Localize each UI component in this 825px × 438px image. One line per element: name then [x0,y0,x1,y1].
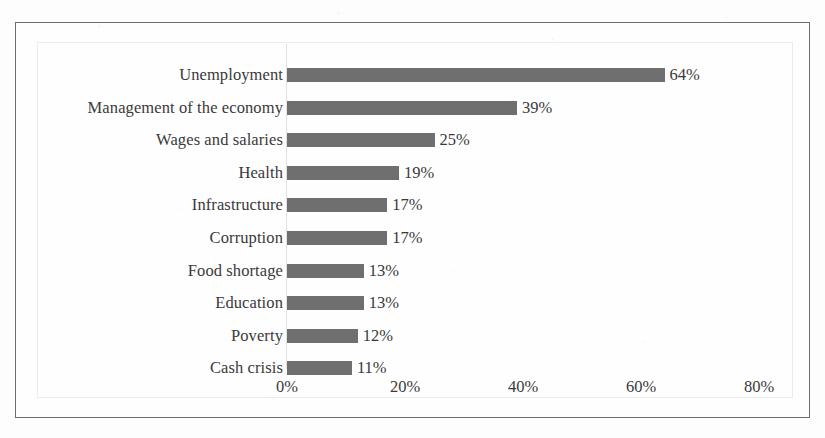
bar-row: Education13% [0,288,825,318]
bar-value-label: 25% [440,125,470,155]
bar-row: Wages and salaries25% [0,125,825,155]
bar-value-label: 12% [363,321,393,351]
bar[interactable] [287,231,387,245]
bar-row: Management of the economy39% [0,93,825,123]
bar-value-label: 13% [369,256,399,286]
category-label: Management of the economy [88,93,283,123]
category-label: Food shortage [188,256,283,286]
bar[interactable] [287,329,358,343]
bar-value-label: 39% [522,93,552,123]
category-label: Education [215,288,283,318]
bar-value-label: 17% [392,190,422,220]
bar[interactable] [287,101,517,115]
chart-screenshot: Unemployment64%Management of the economy… [0,0,825,438]
horizontal-bar-chart: Unemployment64%Management of the economy… [0,0,825,438]
bar-value-label: 13% [369,288,399,318]
bar-row: Infrastructure17% [0,190,825,220]
category-label: Health [238,158,283,188]
bar-row: Unemployment64% [0,60,825,90]
bar-value-label: 17% [392,223,422,253]
bar-value-label: 19% [404,158,434,188]
bar-row: Poverty12% [0,321,825,351]
category-label: Unemployment [179,60,283,90]
category-label: Corruption [210,223,283,253]
bar-row: Food shortage13% [0,256,825,286]
bar-value-label: 64% [670,60,700,90]
x-axis-tick-labels: 0%20%40%60%80% [0,374,825,400]
bar[interactable] [287,68,665,82]
bar[interactable] [287,198,387,212]
x-tick-label: 80% [744,374,774,400]
x-tick-label: 20% [390,374,420,400]
category-label: Wages and salaries [156,125,283,155]
category-label: Infrastructure [192,190,283,220]
bar-row: Corruption17% [0,223,825,253]
bar-row: Health19% [0,158,825,188]
x-tick-label: 0% [276,374,298,400]
category-label: Poverty [231,321,283,351]
bar[interactable] [287,296,364,310]
bar[interactable] [287,166,399,180]
bar[interactable] [287,133,435,147]
x-tick-label: 40% [508,374,538,400]
x-tick-label: 60% [626,374,656,400]
bar[interactable] [287,264,364,278]
